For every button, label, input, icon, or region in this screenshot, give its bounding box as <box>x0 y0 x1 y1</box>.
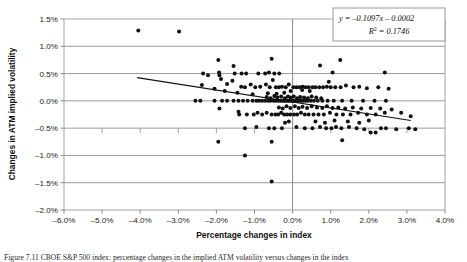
figure-caption: Figure 7.11 CBOE S&P 500 index: percenta… <box>4 253 349 262</box>
regression-equation: y = –0.1097x – 0.0002 <box>338 14 414 23</box>
y-tick-label: 0.0% <box>40 97 58 106</box>
data-point <box>350 99 354 103</box>
data-point <box>413 127 417 131</box>
data-point <box>312 113 316 117</box>
data-point <box>340 99 344 103</box>
x-tick-label: 2.0% <box>360 216 378 225</box>
data-point <box>206 73 210 77</box>
data-point <box>136 28 140 32</box>
y-tick-label: –1.5% <box>35 179 58 188</box>
data-point <box>341 113 345 117</box>
regression-annotation: y = –0.1097x – 0.0002 R2 = 0.1746 <box>333 8 445 41</box>
y-tick-label: –2.0% <box>35 206 58 215</box>
data-point <box>216 58 220 62</box>
data-point <box>284 85 288 89</box>
data-point <box>270 180 274 184</box>
data-point <box>312 99 316 103</box>
data-point <box>357 85 361 89</box>
data-point <box>256 72 260 76</box>
y-tick-label: 1.0% <box>40 42 58 51</box>
r-squared-rest: = 0.1746 <box>377 27 410 36</box>
data-point <box>271 78 275 82</box>
data-point <box>334 125 338 129</box>
data-point <box>251 99 255 103</box>
data-point <box>277 105 281 109</box>
data-point <box>232 99 236 103</box>
data-point <box>329 126 333 130</box>
data-point <box>298 95 302 99</box>
data-point <box>297 106 301 110</box>
data-point <box>338 58 342 62</box>
data-point <box>268 85 272 89</box>
data-point <box>240 72 244 76</box>
data-point <box>233 72 237 76</box>
y-tick-label: 0.5% <box>40 70 58 79</box>
x-tick-label: 0.0% <box>283 216 301 225</box>
data-point <box>347 125 351 129</box>
data-point <box>310 94 314 98</box>
data-point <box>307 85 311 89</box>
data-point <box>361 99 365 103</box>
data-point <box>230 79 234 83</box>
data-point <box>213 99 217 103</box>
data-point <box>282 91 286 95</box>
y-tick-labels: 1.5%1.0%0.5%0.0%–0.5%–1.0%–1.5%–2.0% <box>35 15 58 215</box>
data-point <box>349 113 353 117</box>
x-tick-label: 1.0% <box>321 216 339 225</box>
data-point <box>308 89 312 93</box>
data-point <box>302 96 306 100</box>
data-point <box>339 126 343 130</box>
data-point <box>285 104 289 108</box>
data-point <box>374 131 378 135</box>
data-point <box>369 131 373 135</box>
data-point <box>294 125 298 129</box>
data-point <box>339 85 343 89</box>
data-point <box>258 85 262 89</box>
data-point <box>237 113 241 117</box>
data-point <box>217 107 221 111</box>
data-point <box>272 72 276 76</box>
data-point <box>323 121 327 125</box>
data-point <box>243 153 247 157</box>
data-point <box>387 87 391 91</box>
data-point <box>265 111 269 115</box>
y-tick-label: –1.0% <box>35 151 58 160</box>
data-point <box>340 138 344 142</box>
data-point <box>292 94 296 98</box>
data-point <box>201 72 205 76</box>
data-point <box>266 91 270 95</box>
data-point <box>313 85 317 89</box>
data-point <box>319 96 323 100</box>
x-tick-label: 3.0% <box>398 216 416 225</box>
data-point <box>252 113 256 117</box>
data-point <box>232 64 236 68</box>
data-point <box>326 99 330 103</box>
data-point <box>331 70 335 74</box>
figure-container: –6.0%–5.0%–4.0%–3.0%–2.0%–1.0%0.0%1.0%2.… <box>0 0 467 262</box>
data-point <box>394 127 398 131</box>
data-point <box>303 126 307 130</box>
data-point <box>225 99 229 103</box>
data-point <box>365 86 369 90</box>
data-point <box>384 126 388 130</box>
data-point <box>281 107 285 111</box>
data-point <box>264 82 268 86</box>
data-point <box>267 126 271 130</box>
data-point <box>329 85 333 89</box>
data-point <box>352 85 356 89</box>
data-point <box>333 85 337 89</box>
data-point <box>303 113 307 117</box>
data-point <box>263 72 267 76</box>
data-point <box>305 106 309 110</box>
data-point <box>249 82 253 86</box>
data-point <box>295 113 299 117</box>
x-tick-label: –6.0% <box>53 216 76 225</box>
x-tick-label: 4.0% <box>436 216 454 225</box>
data-point <box>288 113 292 117</box>
data-point <box>287 82 291 86</box>
data-point <box>328 111 332 115</box>
data-point <box>272 94 276 98</box>
data-point <box>310 126 314 130</box>
data-point <box>332 99 336 103</box>
data-point <box>318 125 322 129</box>
